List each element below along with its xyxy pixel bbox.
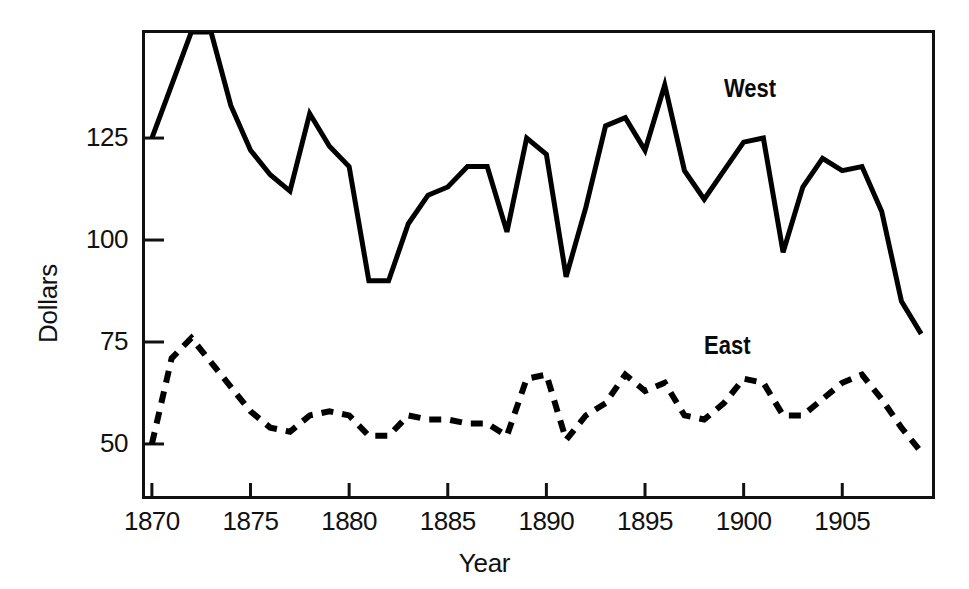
x-axis-ticks <box>152 483 842 497</box>
series-lines <box>152 32 921 452</box>
y-axis-title: Dollars <box>33 204 64 404</box>
y-tick-label: 50 <box>0 428 128 459</box>
series-line-west <box>152 32 921 334</box>
line-chart-plot <box>0 0 969 589</box>
series-label-east: East <box>704 331 750 360</box>
y-tick-label: 75 <box>0 326 128 357</box>
series-label-west: West <box>724 74 776 103</box>
plot-frame <box>144 32 934 498</box>
series-line-east <box>152 338 921 452</box>
y-tick-label: 100 <box>0 224 128 255</box>
y-tick-label: 125 <box>0 122 128 153</box>
x-tick-label: 1905 <box>782 506 902 537</box>
chart-figure: 18701875188018851890189519001905 5075100… <box>0 0 969 589</box>
x-axis-title: Year <box>0 548 969 579</box>
